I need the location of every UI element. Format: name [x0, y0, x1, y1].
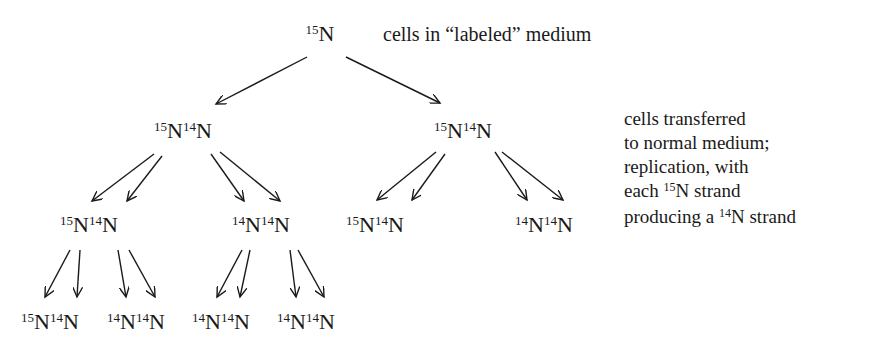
arrow: [220, 152, 280, 201]
isotope-number: 14: [277, 310, 290, 325]
isotope-number: 14: [306, 310, 319, 325]
text: N strand: [676, 180, 741, 201]
arrow: [217, 250, 242, 297]
isotope-number: 14: [232, 213, 245, 228]
gen3-node-1: 15N14N: [21, 311, 79, 333]
arrow: [129, 250, 155, 297]
element-symbol: N: [102, 212, 118, 237]
isotope-number: 14: [89, 213, 102, 228]
isotope-number: 14: [136, 310, 149, 325]
element-symbol: N: [528, 212, 544, 237]
element-symbol: N: [73, 212, 89, 237]
gen2-node-2: 14N14N: [232, 214, 290, 236]
element-symbol: N: [388, 212, 404, 237]
element-symbol: N: [319, 309, 335, 334]
arrow: [377, 152, 436, 200]
isotope-number: 15: [60, 213, 73, 228]
gen2-node-4: 14N14N: [515, 214, 573, 236]
isotope-number: 14: [221, 310, 234, 325]
gen1-node-left: 15N14N: [154, 120, 212, 142]
element-symbol: N: [245, 212, 261, 237]
element-symbol: N: [34, 309, 50, 334]
note-line-4: each 15N strand: [624, 179, 796, 205]
isotope-number: 14: [544, 213, 557, 228]
gen3-node-2: 14N14N: [107, 311, 165, 333]
element-symbol: N: [63, 309, 79, 334]
transfer-note: cells transferred to normal medium; repl…: [624, 107, 796, 231]
isotope-number: 15: [21, 310, 34, 325]
isotope-number: 14: [375, 213, 388, 228]
arrow: [290, 250, 296, 297]
note-line-1: cells transferred: [624, 107, 796, 131]
arrow: [118, 250, 126, 297]
arrow-root-right: [346, 57, 440, 103]
isotope-number: 15: [306, 22, 319, 37]
gen2-node-1: 15N14N: [60, 214, 118, 236]
isotope-number: 15: [346, 213, 359, 228]
element-symbol: N: [476, 118, 492, 143]
text: producing a: [624, 206, 719, 227]
gen3-node-3: 14N14N: [192, 311, 250, 333]
element-symbol: N: [120, 309, 136, 334]
arrow: [211, 154, 244, 201]
gen3-node-4: 14N14N: [277, 311, 335, 333]
text: N strand: [731, 206, 796, 227]
arrow: [45, 250, 70, 297]
isotope-number: 14: [719, 206, 731, 220]
arrow: [240, 250, 250, 297]
isotope-number: 14: [183, 119, 196, 134]
gen1-node-right: 15N14N: [434, 120, 492, 142]
element-symbol: N: [447, 118, 463, 143]
arrow: [127, 156, 162, 201]
text: each: [624, 180, 664, 201]
note-line-2: to normal medium;: [624, 131, 796, 155]
element-symbol: N: [290, 309, 306, 334]
element-symbol: N: [234, 309, 250, 334]
isotope-number: 14: [515, 213, 528, 228]
isotope-number: 14: [50, 310, 63, 325]
isotope-number: 14: [107, 310, 120, 325]
element-symbol: N: [557, 212, 573, 237]
isotope-number: 15: [664, 180, 676, 194]
arrow-root-left: [216, 57, 307, 104]
isotope-number: 15: [434, 119, 447, 134]
arrow: [77, 250, 80, 297]
root-node-15N: 15N: [306, 23, 335, 45]
arrow: [298, 250, 324, 297]
isotope-number: 15: [154, 119, 167, 134]
element-symbol: N: [359, 212, 375, 237]
element-symbol: N: [274, 212, 290, 237]
isotope-number: 14: [463, 119, 476, 134]
arrow: [412, 154, 445, 200]
isotope-number: 14: [261, 213, 274, 228]
labeled-medium-caption: cells in “labeled” medium: [383, 22, 591, 46]
gen2-node-3: 15N14N: [346, 214, 404, 236]
note-line-5: producing a 14N strand: [624, 205, 796, 231]
note-line-3: replication, with: [624, 155, 796, 179]
element-symbol: N: [319, 21, 335, 46]
element-symbol: N: [205, 309, 221, 334]
element-symbol: N: [149, 309, 165, 334]
element-symbol: N: [167, 118, 183, 143]
isotope-number: 14: [192, 310, 205, 325]
element-symbol: N: [196, 118, 212, 143]
